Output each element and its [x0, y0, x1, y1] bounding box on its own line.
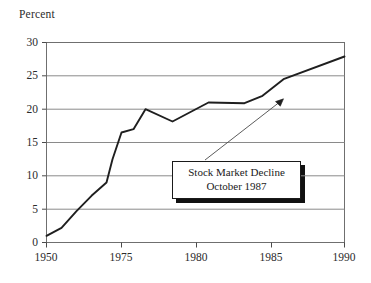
y-tick-label-5: 5 — [12, 203, 38, 215]
y-tick-label-0: 0 — [12, 236, 38, 248]
x-tick-label-1950: 1950 — [26, 251, 66, 263]
y-tick-label-10: 10 — [12, 169, 38, 181]
x-axis-ticks — [47, 243, 345, 248]
plot-area — [0, 0, 371, 283]
annotation-line-1: Stock Market Decline — [175, 166, 298, 180]
annotation-arrow — [205, 99, 284, 160]
x-tick-label-1980: 1980 — [176, 251, 216, 263]
x-tick-label-1985: 1985 — [251, 251, 291, 263]
chart-figure: Percent — [0, 0, 371, 283]
annotation-line-2: October 1987 — [175, 180, 298, 194]
annotation-callout: Stock Market Decline October 1987 — [172, 161, 301, 199]
y-tick-label-20: 20 — [12, 103, 38, 115]
y-tick-label-25: 25 — [12, 69, 38, 81]
y-tick-label-15: 15 — [12, 136, 38, 148]
y-axis-ticks — [42, 43, 47, 243]
x-tick-label-1990: 1990 — [324, 251, 364, 263]
y-tick-label-30: 30 — [12, 36, 38, 48]
x-tick-label-1975: 1975 — [101, 251, 141, 263]
